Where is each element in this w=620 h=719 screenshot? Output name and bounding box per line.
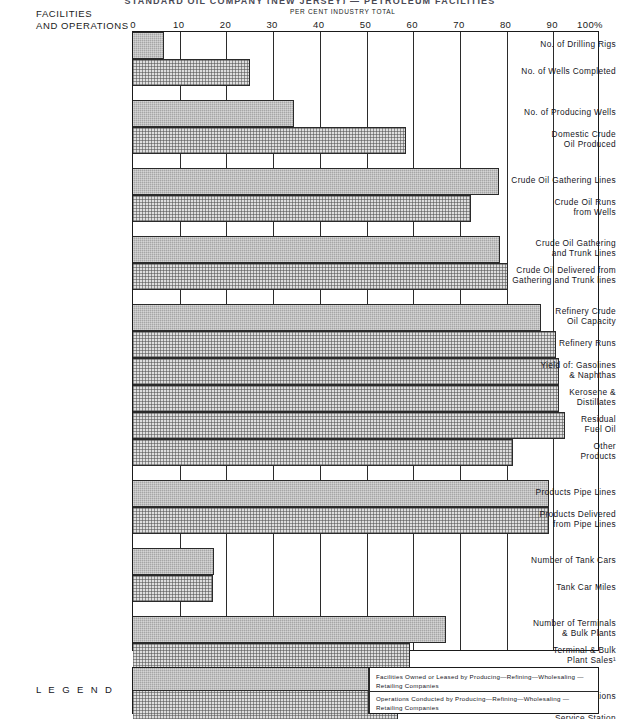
bar-refinery-crude-oil-capacity (133, 304, 541, 331)
legend-swatch-operations (133, 691, 369, 714)
x-axis-tick-70: 70 (453, 19, 464, 30)
legend-swatch-facilities (133, 668, 369, 691)
bar-domestic-crude-oil-produced (133, 127, 406, 154)
legend-word: L E G E N D (36, 684, 114, 695)
x-axis-tick-50: 50 (360, 19, 371, 30)
row-label-refinery-crude-oil-capacity: Refinery Crude Oil Capacity (492, 306, 620, 326)
x-axis-tick-80: 80 (500, 19, 511, 30)
row-label-number-of-terminals-bulk-plants: Number of Terminals & Bulk Plants (492, 618, 620, 638)
legend-box: Facilities Owned or Leased by Producing—… (132, 667, 599, 714)
row-label-crude-oil-delivered-from-gathering-and-trunk-lines: Crude Oil Delivered from Gathering and T… (492, 265, 620, 285)
bar-products-delivered-from-pipe-lines (133, 507, 549, 534)
bar-products-pipe-lines (133, 480, 549, 507)
bar-crude-oil-gathering-and-trunk-lines (133, 236, 500, 263)
x-axis-tick-labels: 0102030405060708090100% (0, 19, 620, 31)
row-label-no-of-drilling-rigs: No. of Drilling Rigs (492, 39, 620, 49)
row-label-domestic-crude-oil-produced: Domestic Crude Oil Produced (492, 129, 620, 149)
bar-crude-oil-gathering-lines (133, 168, 499, 195)
bar-terminal-bulk-plant-sales (133, 643, 410, 670)
per-cent-industry-total-label: PER CENT INDUSTRY TOTAL (290, 8, 396, 15)
bar-tank-car-miles (133, 575, 213, 602)
row-label-crude-oil-gathering-lines: Crude Oil Gathering Lines (492, 175, 620, 185)
row-label-kerosene-distillates: Kerosene & Distillates (492, 387, 620, 407)
bar-other-products (133, 439, 513, 466)
bar-crude-oil-delivered-from-gathering-and-trunk-lines (133, 263, 508, 290)
bar-no-of-drilling-rigs (133, 32, 164, 59)
row-label-tank-car-miles: Tank Car Miles (492, 582, 620, 592)
row-label-products-delivered-from-pipe-lines: Products Delivered from Pipe Lines (492, 509, 620, 529)
chart-title-clipped: STANDARD OIL COMPANY (NEW JERSEY) — PETR… (0, 0, 620, 4)
legend-text-operations: Operations Conducted by Producing—Refini… (376, 695, 598, 712)
row-label-yield-of-gasolines-naphthas: Yield of: Gasolines & Naphthas (492, 360, 620, 380)
bar-no-of-producing-wells (133, 100, 294, 127)
chart-page: STANDARD OIL COMPANY (NEW JERSEY) — PETR… (0, 0, 620, 719)
row-label-no-of-wells-completed: No. of Wells Completed (492, 66, 620, 76)
bar-number-of-terminals-bulk-plants (133, 616, 446, 643)
row-label-refinery-runs: Refinery Runs (492, 338, 620, 348)
bar-crude-oil-runs-from-wells (133, 195, 471, 222)
row-label-residual-fuel-oil: Residual Fuel Oil (492, 414, 620, 434)
bar-number-of-tank-cars (133, 548, 214, 575)
x-axis-tick-10: 10 (173, 19, 184, 30)
row-label-no-of-producing-wells: No. of Producing Wells (492, 107, 620, 117)
x-axis-tick-20: 20 (220, 19, 231, 30)
x-axis-tick-30: 30 (266, 19, 277, 30)
row-label-terminal-bulk-plant-sales: Terminal & Bulk Plant Sales¹ (492, 645, 620, 665)
legend-row-divider (369, 691, 598, 692)
row-label-other-products: Other Products (492, 441, 620, 461)
x-axis-tick-40: 40 (313, 19, 324, 30)
row-label-products-pipe-lines: Products Pipe Lines (492, 487, 620, 497)
row-label-crude-oil-runs-from-wells: Crude Oil Runs from Wells (492, 197, 620, 217)
legend-text-facilities: Facilities Owned or Leased by Producing—… (376, 673, 598, 690)
x-axis-tick-100: 100% (577, 19, 603, 30)
row-label-number-of-tank-cars: Number of Tank Cars (492, 555, 620, 565)
x-axis-tick-0: 0 (130, 19, 136, 30)
row-label-crude-oil-gathering-and-trunk-lines: Crude Oil Gathering and Trunk Lines (492, 238, 620, 258)
x-axis-tick-90: 90 (547, 19, 558, 30)
bar-no-of-wells-completed (133, 59, 250, 86)
x-axis-tick-60: 60 (407, 19, 418, 30)
